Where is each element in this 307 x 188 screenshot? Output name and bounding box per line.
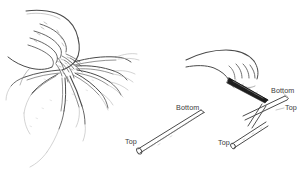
label-middle-bottom: Bottom <box>176 104 199 111</box>
label-middle-top: Top <box>125 138 137 145</box>
label-right-bottom: Bottom <box>271 87 294 94</box>
root-cutting-illustration <box>0 0 307 188</box>
paper-background <box>0 0 307 188</box>
label-right-top-secondary: Top <box>218 139 230 146</box>
illustration-canvas: Bottom Top Bottom Top Top <box>0 0 307 188</box>
label-right-top: Top <box>285 104 297 111</box>
